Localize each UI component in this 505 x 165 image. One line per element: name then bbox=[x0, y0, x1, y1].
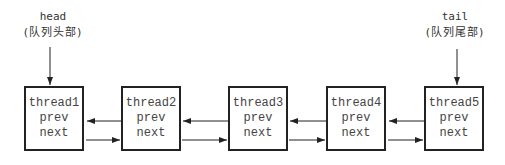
node-name: thread2 bbox=[123, 96, 179, 111]
node-thread4: thread4 prev next bbox=[326, 86, 386, 151]
node-name: thread1 bbox=[26, 96, 82, 111]
node-next-field: next bbox=[328, 126, 384, 141]
node-name: thread4 bbox=[328, 96, 384, 111]
node-name: thread3 bbox=[230, 96, 286, 111]
linked-list-diagram: head (队列头部) tail (队列尾部) thread1 prev bbox=[0, 0, 505, 165]
node-name: thread5 bbox=[426, 96, 482, 111]
node-next-field: next bbox=[123, 126, 179, 141]
node-prev-field: prev bbox=[123, 111, 179, 126]
node-thread3: thread3 prev next bbox=[228, 86, 288, 151]
node-prev-field: prev bbox=[426, 111, 482, 126]
node-thread2: thread2 prev next bbox=[121, 86, 181, 151]
node-next-field: next bbox=[230, 126, 286, 141]
node-next-field: next bbox=[426, 126, 482, 141]
node-thread1: thread1 prev next bbox=[24, 86, 84, 151]
node-prev-field: prev bbox=[26, 111, 82, 126]
node-next-field: next bbox=[26, 126, 82, 141]
node-prev-field: prev bbox=[230, 111, 286, 126]
node-prev-field: prev bbox=[328, 111, 384, 126]
node-thread5: thread5 prev next bbox=[424, 86, 484, 151]
